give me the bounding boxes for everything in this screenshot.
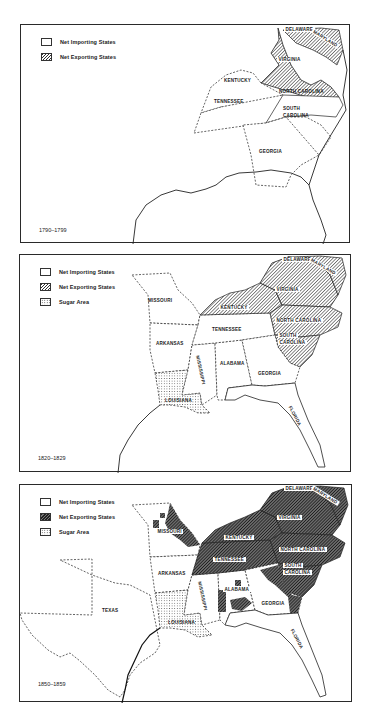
- label-delaware: DELAWARE: [282, 257, 313, 262]
- label-louisiana: LOUISIANA: [165, 398, 192, 403]
- legend: Net Importing States Net Exporting State…: [40, 495, 115, 540]
- exporting-swatch-icon: [40, 283, 51, 291]
- importing-swatch-icon: [40, 498, 51, 506]
- label-georgia: GEORGIA: [259, 149, 282, 154]
- label-kentucky: KENTUCKY: [219, 305, 249, 310]
- label-missouri: MISSOURI: [148, 298, 172, 303]
- legend-sugar: Sugar Area: [40, 525, 115, 538]
- label-south-carolina-line2: CAROLINA: [283, 113, 309, 118]
- label-north-carolina: NORTH CAROLINA: [279, 89, 324, 94]
- label-south-carolina-line1: SOUTH: [278, 333, 298, 338]
- label-south-carolina-line1: SOUTH: [283, 563, 303, 568]
- map-panel-1820-1829: Net Importing States Net Exporting State…: [19, 254, 351, 472]
- label-north-carolina: NORTH CAROLINA: [279, 547, 327, 552]
- legend-importing: Net Importing States: [41, 35, 116, 48]
- label-delaware: DELAWARE: [284, 27, 315, 32]
- texas-region: [20, 559, 160, 697]
- period-label: 1790–1799: [39, 227, 67, 233]
- label-virginia: VIRGINIA: [275, 287, 300, 292]
- alabama-exporting-patch: [235, 580, 241, 586]
- label-kentucky: KENTUCKY: [224, 535, 254, 540]
- legend-importing: Net Importing States: [40, 495, 115, 508]
- period-label: 1850–1859: [38, 681, 66, 687]
- label-virginia: VIRGINIA: [277, 57, 302, 62]
- label-south-carolina-line1: SOUTH: [283, 106, 300, 111]
- legend-exporting: Net Exporting States: [41, 50, 116, 63]
- florida-region: [225, 383, 325, 467]
- map-panel-1790-1799: Net Importing States Net Exporting State…: [20, 24, 350, 243]
- legend-sugar-label: Sugar Area: [59, 529, 89, 535]
- sugar-swatch-icon: [40, 298, 51, 306]
- label-south-carolina-line2: CAROLINA: [278, 340, 307, 345]
- legend-exporting-label: Net Exporting States: [59, 514, 115, 520]
- alabama-exporting-patch: [218, 590, 226, 612]
- label-georgia: GEORGIA: [258, 371, 281, 376]
- label-south-carolina-line2: CAROLINA: [283, 570, 312, 575]
- label-arkansas: ARKANSAS: [156, 341, 184, 346]
- label-alabama: ALABAMA: [220, 361, 245, 366]
- legend-sugar-label: Sugar Area: [59, 299, 89, 305]
- label-louisiana: LOUISIANA: [168, 620, 195, 625]
- label-tennessee: TENNESSEE: [214, 99, 244, 104]
- label-virginia: VIRGINIA: [277, 515, 302, 520]
- florida-region: [225, 610, 326, 697]
- legend-importing-label: Net Importing States: [59, 269, 115, 275]
- label-kentucky: KENTUCKY: [224, 78, 251, 83]
- legend-sugar: Sugar Area: [40, 295, 115, 308]
- legend-importing: Net Importing States: [40, 265, 115, 278]
- legend: Net Importing States Net Exporting State…: [41, 35, 116, 65]
- label-tennessee: TENNESSEE: [212, 327, 242, 332]
- exporting-swatch-icon: [41, 53, 52, 61]
- legend-importing-label: Net Importing States: [59, 499, 115, 505]
- label-north-carolina: NORTH CAROLINA: [275, 318, 323, 323]
- legend-exporting-label: Net Exporting States: [60, 54, 116, 60]
- legend: Net Importing States Net Exporting State…: [40, 265, 115, 310]
- map-panel-1850-1859: Net Importing States Net Exporting State…: [19, 484, 352, 702]
- label-georgia: GEORGIA: [260, 601, 286, 606]
- importing-swatch-icon: [41, 38, 52, 46]
- legend-exporting: Net Exporting States: [40, 280, 115, 293]
- missouri-exporting-patch: [160, 513, 165, 518]
- legend-exporting-label: Net Exporting States: [59, 284, 115, 290]
- sugar-swatch-icon: [40, 528, 51, 536]
- legend-exporting: Net Exporting States: [40, 510, 115, 523]
- label-missouri: MISSOURI: [156, 529, 183, 534]
- label-tennessee: TENNESSEE: [213, 557, 246, 562]
- label-texas: TEXAS: [102, 608, 118, 613]
- label-arkansas: ARKANSAS: [158, 571, 186, 576]
- exporting-swatch-icon: [40, 513, 51, 521]
- missouri-exporting-patch: [153, 520, 159, 528]
- importing-swatch-icon: [40, 268, 51, 276]
- label-alabama: ALABAMA: [223, 587, 251, 592]
- legend-importing-label: Net Importing States: [60, 39, 116, 45]
- period-label: 1820–1829: [38, 455, 66, 461]
- gulf-coastline: [118, 405, 160, 473]
